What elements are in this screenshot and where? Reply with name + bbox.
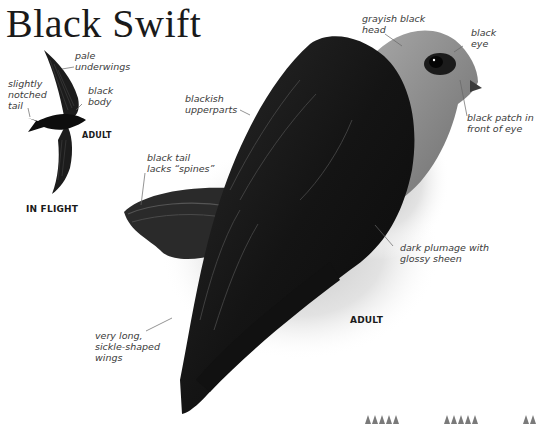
footer-decoration-group-1 [365, 415, 399, 424]
triangle-icon [458, 415, 464, 424]
label-black-body: black body [88, 85, 113, 107]
triangle-icon [451, 415, 457, 424]
triangle-icon [465, 415, 471, 424]
triangle-icon [372, 415, 378, 424]
label-very-long-sickle-shaped-wings: very long, sickle-shaped wings [95, 330, 160, 363]
triangle-icon [365, 415, 371, 424]
triangle-icon [472, 415, 478, 424]
in-flight-adult-caption: ADULT [82, 131, 112, 140]
label-black-eye: black eye [471, 27, 496, 49]
label-dark-plumage-glossy-sheen: dark plumage with glossy sheen [400, 242, 489, 264]
footer-decoration-group-2 [444, 415, 478, 424]
triangle-icon [393, 415, 399, 424]
label-slightly-notched-tail: slightly notched tail [8, 78, 47, 111]
triangle-icon [523, 415, 529, 424]
triangle-icon [444, 415, 450, 424]
label-grayish-black-head: grayish black head [362, 13, 425, 35]
label-blackish-upperparts: blackish upperparts [185, 93, 237, 115]
label-black-patch-front-of-eye: black patch in front of eye [467, 112, 534, 134]
footer-decoration-group-3 [523, 415, 536, 424]
label-pale-underwings: pale underwings [75, 50, 130, 72]
in-flight-caption: IN FLIGHT [26, 204, 78, 214]
perched-adult-caption: ADULT [350, 315, 383, 325]
triangle-icon [379, 415, 385, 424]
triangle-icon [386, 415, 392, 424]
triangle-icon [530, 415, 536, 424]
label-black-tail-lacks-spines: black tail lacks “spines” [147, 152, 214, 174]
